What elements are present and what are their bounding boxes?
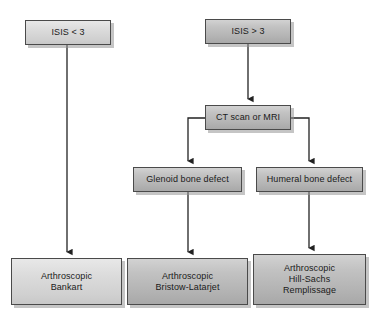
node-ct-scan-or-mri-label: CT scan or MRI — [208, 112, 288, 123]
node-isis-lt-3[interactable]: ISIS < 3 — [25, 20, 111, 45]
node-glenoid-bone-defect[interactable]: Glenoid bone defect — [133, 167, 242, 192]
node-arthroscopic-bristow-latarjet-label: Arthroscopic Bristow-Latarjet — [130, 271, 245, 293]
node-ct-scan-or-mri[interactable]: CT scan or MRI — [205, 105, 291, 130]
connector-ct-to-glenoid — [188, 118, 205, 161]
node-arthroscopic-bristow-latarjet[interactable]: Arthroscopic Bristow-Latarjet — [127, 258, 248, 305]
node-humeral-bone-defect-label: Humeral bone defect — [259, 174, 360, 185]
node-glenoid-bone-defect-label: Glenoid bone defect — [136, 174, 239, 185]
node-humeral-bone-defect[interactable]: Humeral bone defect — [256, 167, 363, 192]
node-arthroscopic-bankart[interactable]: Arthroscopic Bankart — [11, 258, 122, 305]
node-arthroscopic-hill-sachs-remplissage[interactable]: Arthroscopic Hill-Sachs Remplissage — [253, 254, 366, 305]
node-isis-gt-3[interactable]: ISIS > 3 — [205, 19, 291, 44]
node-arthroscopic-bankart-label: Arthroscopic Bankart — [14, 271, 119, 293]
flowchart-canvas: ISIS < 3 ISIS > 3 CT scan or MRI Glenoid… — [0, 0, 377, 323]
node-isis-lt-3-label: ISIS < 3 — [28, 27, 108, 38]
node-isis-gt-3-label: ISIS > 3 — [208, 26, 288, 37]
node-arthroscopic-hill-sachs-remplissage-label: Arthroscopic Hill-Sachs Remplissage — [256, 263, 363, 296]
connector-ct-to-humeral — [291, 118, 309, 161]
